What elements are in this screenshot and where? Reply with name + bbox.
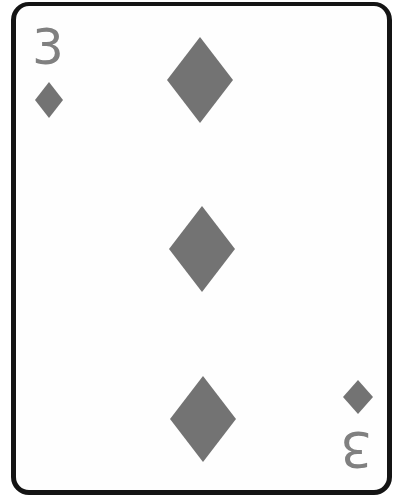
- diamond-icon: [167, 37, 233, 123]
- diamond-icon: [343, 380, 373, 414]
- rank-label-bottom-right: 3: [339, 424, 373, 474]
- rank-label-top-left: 3: [31, 22, 65, 72]
- diamond-icon: [169, 206, 235, 292]
- diamond-icon: [35, 82, 63, 118]
- diamond-icon: [170, 376, 236, 462]
